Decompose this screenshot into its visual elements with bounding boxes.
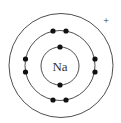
electron — [57, 82, 62, 87]
charge-sign: + — [103, 15, 109, 26]
electron — [92, 69, 97, 74]
electron — [23, 56, 28, 61]
electron — [63, 97, 68, 102]
electron — [92, 56, 97, 61]
electron — [50, 97, 55, 102]
electron — [63, 28, 68, 33]
electron — [57, 44, 62, 49]
electron — [50, 28, 55, 33]
bohr-diagram: Na + — [0, 0, 121, 123]
electron — [23, 69, 28, 74]
element-symbol: Na — [52, 59, 67, 74]
